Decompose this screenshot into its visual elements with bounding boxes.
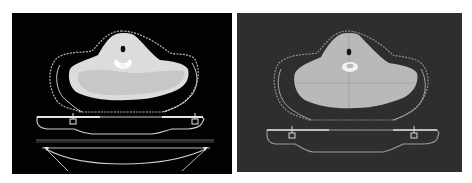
ct-panel-left bbox=[12, 13, 232, 174]
ct-image-left bbox=[12, 13, 232, 174]
ct-panel-right bbox=[237, 13, 462, 172]
ct-image-right bbox=[237, 13, 462, 172]
